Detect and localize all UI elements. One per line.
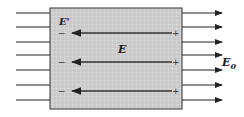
negative-sign: − bbox=[58, 28, 66, 38]
dielectric-slab bbox=[50, 8, 182, 109]
net-field-label: E bbox=[117, 43, 127, 56]
negative-sign: − bbox=[58, 57, 66, 67]
external-field-label: E0 bbox=[221, 56, 236, 71]
positive-sign: + bbox=[172, 57, 180, 67]
negative-sign: − bbox=[58, 86, 66, 96]
dielectric-slab-diagram: − − − + + + E' E E0 bbox=[0, 0, 244, 117]
induced-field-label: E' bbox=[58, 16, 70, 27]
outgoing-field-arrows bbox=[182, 13, 222, 100]
positive-sign: + bbox=[172, 28, 180, 38]
incoming-field-lines bbox=[16, 13, 50, 100]
positive-sign: + bbox=[172, 86, 180, 96]
